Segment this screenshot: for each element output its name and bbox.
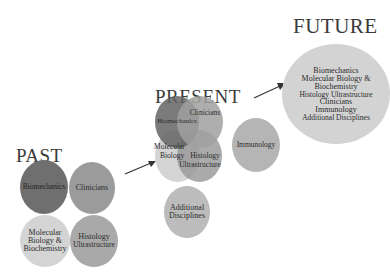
past-molecular-label-3: Biochemistry	[23, 245, 66, 253]
past-molecular-circle: Molecular Biology & Biochemistry	[20, 215, 70, 267]
future-circle: Biomechanics Molecular Biology & Biochem…	[282, 44, 390, 144]
past-biomechanics-circle: Biomechanics	[20, 160, 68, 214]
past-histology-label-2: Ultrastructure	[73, 241, 115, 249]
heading-future: FUTURE	[293, 14, 378, 39]
present-additional-circle: Additional Disciplines	[164, 186, 210, 238]
past-clinicians-label: Clinicians	[76, 184, 108, 192]
present-histology-label-1: Histology	[185, 152, 225, 160]
present-immunology-label: Immunology	[237, 141, 276, 149]
present-biomechanics-label: Biomechanics	[154, 118, 200, 125]
past-biomechanics-label: Biomechanics	[23, 183, 66, 191]
present-clinicians-label: Clinicians	[185, 109, 225, 117]
present-molecular-label-1: Molecular	[154, 143, 186, 151]
future-item-7: Additional Disciplines	[302, 114, 370, 122]
present-histology-label-2: Ultrastructure	[172, 161, 228, 169]
present-additional-label-2: Disciplines	[169, 212, 205, 220]
arrow-past-to-present-icon	[124, 160, 158, 176]
present-immunology-circle: Immunology	[232, 118, 280, 172]
past-histology-circle: Histology Ultrastructure	[70, 215, 118, 267]
past-clinicians-circle: Clinicians	[69, 162, 115, 214]
